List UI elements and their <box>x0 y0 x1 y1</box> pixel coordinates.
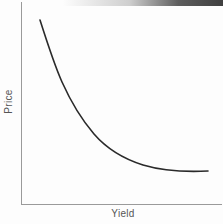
y-axis-label: Price <box>3 80 14 124</box>
price-yield-chart: Price Yield <box>0 0 223 224</box>
price-yield-curve <box>40 20 208 171</box>
plot-area <box>0 0 223 224</box>
x-axis-label: Yield <box>83 208 163 219</box>
